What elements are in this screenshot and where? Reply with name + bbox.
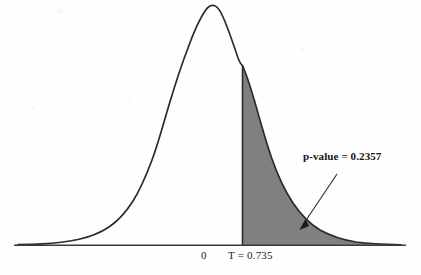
axis-label-t-statistic: T = 0.735 xyxy=(228,249,273,261)
distribution-plot xyxy=(0,0,421,275)
annotation-leader-line xyxy=(304,174,338,224)
p-value-annotation-label: p-value = 0.2357 xyxy=(303,150,381,162)
statistics-figure: 0 T = 0.735 p-value = 0.2357 xyxy=(0,0,421,275)
axis-label-zero: 0 xyxy=(201,249,207,261)
bell-curve-path xyxy=(18,5,401,244)
